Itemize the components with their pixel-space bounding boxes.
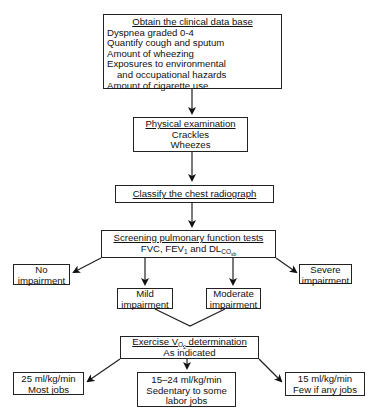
severe-impairment-line1: Severe: [301, 265, 350, 276]
dl-label: and DL: [188, 243, 222, 254]
clinical-data-box: Obtain the clinical data base Dyspnea gr…: [103, 14, 282, 89]
result-mid-line3: labor jobs: [139, 396, 234, 407]
result-low-line1: 15 ml/kg/min: [287, 374, 363, 385]
clinical-data-title: Obtain the clinical data base: [107, 17, 278, 28]
severe-impairment-box: Severe impairment: [299, 264, 352, 284]
no-impairment-box: No impairment: [13, 264, 70, 285]
severe-impairment-line2: impairment: [301, 276, 350, 287]
sb-subscript: sb: [231, 251, 236, 257]
fvc-fev-label: FVC, FEV: [141, 243, 184, 254]
moderate-impairment-line2: impairment: [208, 300, 259, 311]
result-high-line2: Most jobs: [15, 385, 82, 396]
result-mid-line1: 15–24 ml/kg/min: [139, 375, 234, 386]
screening-tests: FVC, FEV1 and DLCOsb: [104, 244, 273, 255]
result-low-box: 15 ml/kg/min Few if any jobs: [285, 372, 365, 396]
result-mid-box: 15–24 ml/kg/min Sedentary to some labor …: [137, 372, 236, 407]
clinical-item-cigarette: Amount of cigarette use: [107, 81, 278, 92]
exercise-as-indicated: As indicated: [123, 348, 256, 359]
result-low-line2: Few if any jobs: [287, 385, 363, 396]
physical-exam-box: Physical examination Crackles Wheezes: [133, 117, 248, 152]
screening-box: Screening pulmonary function tests FVC, …: [101, 230, 276, 258]
clinical-item-hazards: and occupational hazards: [107, 70, 278, 81]
mild-impairment-line2: impairment: [119, 300, 171, 311]
exercise-title: Exercise VO2 determination: [123, 337, 256, 348]
moderate-impairment-box: Moderate impairment: [206, 288, 261, 309]
determination-label: determination: [186, 336, 247, 347]
physical-exam-wheezes: Wheezes: [136, 140, 245, 151]
no-impairment-line1: No: [15, 265, 68, 276]
mild-impairment-line1: Mild: [119, 289, 171, 300]
result-high-line1: 25 ml/kg/min: [15, 374, 82, 385]
physical-exam-title: Physical examination: [136, 119, 245, 130]
no-impairment-line2: impairment: [15, 276, 68, 287]
co-subscript: CO: [221, 248, 231, 255]
exercise-v-label: Exercise V: [132, 336, 178, 347]
exercise-box: Exercise VO2 determination As indicated: [120, 336, 259, 359]
mild-impairment-box: Mild impairment: [117, 288, 173, 309]
radiograph-box: Classify the chest radiograph: [115, 185, 274, 203]
moderate-impairment-line1: Moderate: [208, 289, 259, 300]
result-high-box: 25 ml/kg/min Most jobs: [13, 372, 84, 395]
radiograph-title: Classify the chest radiograph: [118, 189, 271, 200]
